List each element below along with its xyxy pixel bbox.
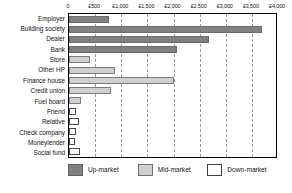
bar-fuel-board[interactable] bbox=[69, 97, 81, 104]
bar-row bbox=[69, 34, 276, 44]
bar-bank[interactable] bbox=[69, 46, 177, 53]
bar-row bbox=[69, 137, 276, 147]
legend-item-down-market[interactable]: Down-market bbox=[207, 164, 277, 176]
bar-row bbox=[69, 45, 276, 55]
x-tick-label: £3,000 bbox=[217, 2, 233, 11]
legend-item-up-market[interactable]: Up-market bbox=[68, 164, 138, 176]
bar-row bbox=[69, 55, 276, 65]
bar-row bbox=[69, 65, 276, 75]
bar-friend[interactable] bbox=[69, 108, 76, 115]
bar-row bbox=[69, 14, 276, 24]
legend-label: Up-market bbox=[88, 166, 119, 174]
y-tick-label-other-hp: Other HP bbox=[0, 65, 67, 75]
y-tick-label-check-company: Check company bbox=[0, 127, 67, 137]
bar-row bbox=[69, 75, 276, 85]
x-tick-label: £2,000 bbox=[165, 2, 181, 11]
x-tick-label: £3,500 bbox=[243, 2, 259, 11]
bar-row bbox=[69, 116, 276, 126]
y-tick-label-employer: Employer bbox=[0, 13, 67, 23]
bar-store[interactable] bbox=[69, 56, 90, 63]
bar-credit-union[interactable] bbox=[69, 87, 111, 94]
bar-social-fund[interactable] bbox=[69, 148, 80, 155]
legend-item-mid-market[interactable]: Mid-market bbox=[138, 164, 208, 176]
x-axis-tick-labels: 0£500£1,000£1,500£2,000£2,500£3,000£3,50… bbox=[0, 2, 292, 13]
x-tick-label: £1,500 bbox=[138, 2, 154, 11]
y-tick-label-dealer: Dealer bbox=[0, 34, 67, 44]
y-tick-label-moneylender: Moneylender bbox=[0, 137, 67, 147]
bar-relative[interactable] bbox=[69, 118, 79, 125]
y-axis-category-labels: EmployerBuilding societyDealerBankStoreO… bbox=[0, 13, 67, 158]
y-tick-label-fuel-board: Fuel board bbox=[0, 96, 67, 106]
x-tick-label: 0 bbox=[67, 2, 70, 11]
bar-chart: 0£500£1,000£1,500£2,000£2,500£3,000£3,50… bbox=[0, 0, 292, 193]
legend-swatch-icon bbox=[68, 164, 83, 176]
bar-moneylender[interactable] bbox=[69, 138, 75, 145]
x-tick-label: £4,000 bbox=[269, 2, 285, 11]
bar-building-society[interactable] bbox=[69, 26, 262, 33]
bar-row bbox=[69, 147, 276, 157]
caption-strip bbox=[0, 185, 292, 193]
x-tick-label: £500 bbox=[88, 2, 100, 11]
legend-swatch-icon bbox=[207, 164, 222, 176]
x-tick-label: £2,500 bbox=[191, 2, 207, 11]
x-tick-label: £1,000 bbox=[112, 2, 128, 11]
bar-dealer[interactable] bbox=[69, 36, 209, 43]
chart-legend: Up-marketMid-marketDown-market bbox=[68, 161, 277, 179]
y-tick-label-friend: Friend bbox=[0, 106, 67, 116]
bar-row bbox=[69, 106, 276, 116]
bar-row bbox=[69, 86, 276, 96]
bar-series-container bbox=[69, 14, 276, 157]
y-tick-label-building-society: Building society bbox=[0, 23, 67, 33]
legend-label: Down-market bbox=[227, 166, 266, 174]
legend-label: Mid-market bbox=[158, 166, 191, 174]
bar-other-hp[interactable] bbox=[69, 67, 115, 74]
bar-check-company[interactable] bbox=[69, 128, 76, 135]
y-tick-label-relative: Relative bbox=[0, 117, 67, 127]
y-tick-label-finance-house: Finance house bbox=[0, 75, 67, 85]
bar-row bbox=[69, 96, 276, 106]
y-tick-label-store: Store bbox=[0, 54, 67, 64]
bar-row bbox=[69, 126, 276, 136]
y-tick-label-bank: Bank bbox=[0, 44, 67, 54]
y-tick-label-credit-union: Credit union bbox=[0, 86, 67, 96]
bar-finance-house[interactable] bbox=[69, 77, 174, 84]
y-tick-label-social-fund: Social fund bbox=[0, 148, 67, 158]
bar-employer[interactable] bbox=[69, 16, 109, 23]
bar-row bbox=[69, 24, 276, 34]
legend-swatch-icon bbox=[138, 164, 153, 176]
plot-area bbox=[68, 13, 277, 158]
